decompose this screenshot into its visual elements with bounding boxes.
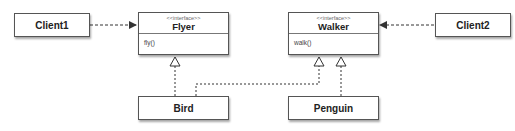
realization-arrowhead-icon <box>314 57 324 66</box>
realization-arrowhead-icon <box>170 57 180 66</box>
interface-walker: <<interface>> Walker walk() <box>288 12 379 55</box>
realization-arrowhead-icon <box>336 57 346 66</box>
interface-header: <<interface>> Walker <box>289 13 378 34</box>
realization-bird-walker <box>196 66 319 96</box>
class-penguin: Penguin <box>288 96 379 120</box>
class-client2: Client2 <box>435 13 511 37</box>
method-fly: fly() <box>139 34 228 46</box>
class-name: Client1 <box>35 20 68 31</box>
class-bird: Bird <box>138 96 229 120</box>
class-name: Penguin <box>314 103 353 114</box>
interface-name: Flyer <box>139 22 228 32</box>
class-client1: Client1 <box>14 13 90 37</box>
interface-header: <<interface>> Flyer <box>139 13 228 34</box>
class-name: Bird <box>174 103 194 114</box>
interface-name: Walker <box>289 22 378 32</box>
method-walk: walk() <box>289 34 378 46</box>
class-name: Client2 <box>456 20 489 31</box>
interface-flyer: <<interface>> Flyer fly() <box>138 12 229 55</box>
